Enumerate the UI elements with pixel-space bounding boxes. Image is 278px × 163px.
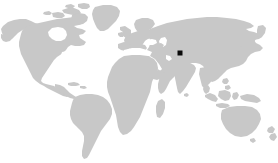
world-locator-map: World map with location marker Central A… [0, 0, 278, 163]
world-map-canvas [0, 0, 278, 163]
water-great-lakes [61, 51, 72, 57]
location-marker[interactable] [178, 51, 183, 56]
location-marker-dot[interactable] [178, 51, 183, 56]
